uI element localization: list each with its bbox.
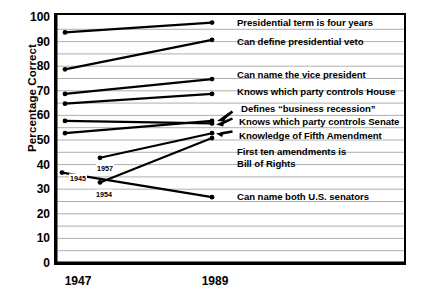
- x-axis-tick-labels: 1947 1989: [0, 272, 421, 292]
- series-label-presidential-veto: Can define presidential veto: [237, 37, 364, 47]
- series-line-party-house: [65, 94, 212, 104]
- series-label-business-recession: Defines “business recession”: [241, 104, 376, 114]
- year-annotation-1954: 1954: [95, 190, 113, 199]
- point-presidential-term-1947: [63, 30, 68, 35]
- series-label-party-senate: Knows which party controls Senate: [239, 117, 399, 127]
- series-label-presidential-term: Presidential term is four years: [237, 18, 373, 28]
- point-party-house-1947: [63, 101, 68, 106]
- point-presidential-veto-1947: [63, 67, 68, 72]
- point-us-senators-1945: [60, 170, 65, 175]
- x-tick-1989: 1989: [202, 274, 229, 288]
- series-line-presidential-veto: [65, 40, 212, 70]
- point-party-house-1989: [210, 92, 215, 97]
- series-label-us-senators: Can name both U.S. senators: [237, 192, 369, 202]
- point-vice-president-1947: [63, 92, 68, 97]
- year-annotation-1945: 1945: [69, 174, 87, 183]
- point-presidential-term-1989: [210, 20, 215, 25]
- point-us-senators-1989: [210, 195, 215, 200]
- series-line-presidential-term: [65, 23, 212, 33]
- series-line-vice-president: [65, 79, 212, 94]
- callout-arrows: [216, 110, 233, 137]
- x-tick-1947: 1947: [65, 274, 92, 288]
- year-annotation-1957: 1957: [96, 164, 114, 173]
- point-bill-of-rights-1989: [210, 136, 215, 141]
- series-label-vice-president: Can name the vice president: [237, 70, 366, 80]
- point-business-recession-1989: [210, 119, 215, 124]
- series-lines: [62, 23, 212, 198]
- point-vice-president-1989: [210, 77, 215, 82]
- chart-figure: Percentage Correct 0 10 20 30 40 50 60 7…: [0, 0, 421, 299]
- point-fifth-amendment-1957: [98, 155, 103, 160]
- series-label-party-house: Knows which party controls House: [237, 87, 395, 97]
- point-bill-of-rights-1954: [98, 180, 103, 185]
- point-presidential-veto-1989: [210, 37, 215, 42]
- series-label-bill-of-rights-line2: Bill of Rights: [237, 159, 295, 169]
- arrow-fifth-amendment-icon: [216, 130, 233, 137]
- point-fifth-amendment-1989: [210, 131, 215, 136]
- series-label-bill-of-rights-line1: First ten amendments is: [237, 147, 346, 157]
- series-label-fifth-amendment: Knowledge of Fifth Amendment: [239, 131, 382, 141]
- point-business-recession-1947: [63, 131, 68, 136]
- point-party-senate-1947: [63, 119, 68, 124]
